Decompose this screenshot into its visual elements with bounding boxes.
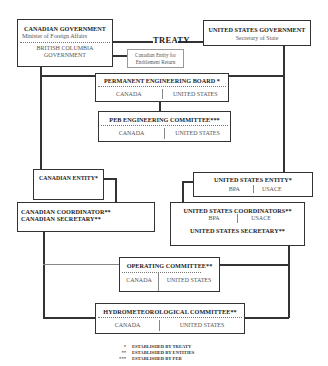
- canada-left-vertical: [40, 67, 42, 169]
- hydromet-split: CANADA UNITED STATES: [96, 320, 244, 331]
- us-entity-connector-v: [182, 181, 184, 202]
- us-secretary-title: UNITED STATES SECRETARY**: [171, 227, 304, 234]
- divider: [101, 125, 228, 126]
- ca-to-hydromet-line: [43, 317, 96, 319]
- legend-item: ***ESTABLISHED BY PEB: [116, 356, 194, 362]
- legend-mark: ***: [116, 356, 126, 362]
- us-coordinators-box: UNITED STATES COORDINATORS** BPA USACE U…: [170, 202, 305, 246]
- bc-to-entitlement-line: [113, 55, 127, 57]
- us-to-hydromet-line: [245, 317, 289, 319]
- treaty-label: TREATY: [153, 35, 190, 45]
- peb-committee-title: PEB ENGINEERING COMMITTEE***: [99, 116, 230, 123]
- hydromet-united-states: UNITED STATES: [160, 320, 244, 331]
- us-coordinators-title: UNITED STATES COORDINATORS**: [171, 207, 304, 214]
- us-coordinators-bpa: BPA: [191, 214, 238, 223]
- us-coordinators-usace: USACE: [238, 214, 284, 223]
- operating-committee-united-states: UNITED STATES: [159, 273, 219, 291]
- us-entity-split: BPA USACE: [216, 185, 290, 193]
- canadian-government-title: CANADIAN GOVERNMENT: [18, 25, 112, 32]
- peb-to-us-line: [229, 75, 284, 77]
- us-government-box: UNITED STATES GOVERNMENT Secretary of St…: [203, 20, 311, 46]
- operating-committee-split: CANADA UNITED STATES: [120, 273, 219, 291]
- us-entity-usace: USACE: [254, 185, 291, 193]
- canadian-government-box: CANADIAN GOVERNMENT Minister of Foreign …: [17, 19, 113, 67]
- entitlement-line1: Canadian Entity for: [128, 52, 183, 59]
- peb-engineering-committee-box: PEB ENGINEERING COMMITTEE*** CANADA UNIT…: [98, 111, 231, 142]
- divider: [20, 42, 110, 43]
- us-entity-bpa: BPA: [216, 185, 254, 193]
- peb-united-states: UNITED STATES: [163, 89, 229, 99]
- us-right-vertical: [283, 46, 285, 172]
- us-entity-title: UNITED STATES ENTITY*: [194, 176, 312, 183]
- us-to-operating-line: [220, 264, 289, 266]
- hydrometeorological-committee-box: HYDROMETEOROLOGICAL COMMITTEE** CANADA U…: [95, 303, 245, 334]
- legend-text: ESTABLISHED BY TREATY: [132, 344, 191, 349]
- permanent-engineering-board-box: PERMANENT ENGINEERING BOARD * CANADA UNI…: [95, 73, 229, 102]
- divider: [98, 86, 226, 87]
- legend-text: ESTABLISHED BY PEB: [132, 356, 182, 361]
- operating-committee-canada: CANADA: [120, 273, 159, 291]
- peb-committee-canada: CANADA: [99, 128, 165, 139]
- canadian-entity-title: CANADIAN ENTITY*: [34, 175, 103, 181]
- canadian-coordinator-title: CANADIAN COORDINATOR**: [18, 208, 154, 215]
- us-entity-box: UNITED STATES ENTITY* BPA USACE: [193, 172, 313, 197]
- ca-lower-vertical: [43, 232, 45, 318]
- divider: [98, 317, 242, 318]
- peb-title: PERMANENT ENGINEERING BOARD *: [96, 77, 228, 84]
- us-coordinators-split: BPA USACE: [191, 214, 284, 223]
- operating-committee-title: OPERATING COMMITTEE**: [120, 262, 219, 269]
- peb-split: CANADA UNITED STATES: [96, 89, 228, 99]
- ca-to-operating-line: [43, 264, 120, 265]
- peb-canada: CANADA: [96, 89, 163, 99]
- canada-to-peb-line: [40, 75, 96, 77]
- bc-government-line1: BRITISH COLUMBIA: [18, 45, 112, 52]
- legend-text: ESTABLISHED BY ENTITIES: [132, 350, 194, 355]
- us-government-title: UNITED STATES GOVERNMENT: [204, 26, 310, 33]
- canadian-entitlement-box: Canadian Entity for Entitlement Return: [127, 49, 184, 68]
- legend: *ESTABLISHED BY TREATY **ESTABLISHED BY …: [116, 344, 194, 361]
- canadian-coordinator-box: CANADIAN COORDINATOR** CANADIAN SECRETAR…: [17, 202, 155, 232]
- hydromet-title: HYDROMETEOROLOGICAL COMMITTEE**: [96, 308, 244, 315]
- treaty-connector-line: [113, 41, 153, 43]
- canadian-government-subtitle: Minister of Foreign Affairs: [18, 33, 112, 39]
- hydromet-canada: CANADA: [96, 320, 160, 331]
- canadian-secretary-title: CANADIAN SECRETARY**: [18, 215, 154, 222]
- peb-committee-split: CANADA UNITED STATES: [99, 128, 230, 139]
- entitlement-line2: Entitlement Return: [128, 59, 183, 66]
- ca-entity-connector-v: [115, 178, 117, 202]
- peb-committee-united-states: UNITED STATES: [165, 128, 230, 139]
- operating-committee-box: OPERATING COMMITTEE** CANADA UNITED STAT…: [119, 257, 220, 292]
- bc-government-line2: GOVERNMENT: [18, 52, 112, 59]
- canadian-entity-box: CANADIAN ENTITY*: [33, 169, 104, 200]
- us-lower-vertical: [288, 246, 290, 318]
- us-government-subtitle: Secretary of State: [204, 35, 310, 41]
- peb-to-committee-line: [159, 101, 161, 111]
